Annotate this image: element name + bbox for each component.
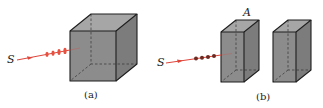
cube-front-face <box>70 31 116 81</box>
arrow-icon <box>177 60 183 64</box>
panel-b: S A (b) <box>157 6 311 102</box>
caption-a: (a) <box>84 89 98 100</box>
caption-b: (b) <box>256 91 270 102</box>
source-label-b: S <box>157 56 165 69</box>
panel-a: S (a) <box>7 14 137 100</box>
block-label-a: A <box>242 6 251 19</box>
block-b <box>273 20 311 82</box>
cube <box>70 14 137 81</box>
source-label-a: S <box>7 53 15 66</box>
block-a <box>221 20 259 82</box>
optics-figure: S (a) <box>0 0 323 108</box>
